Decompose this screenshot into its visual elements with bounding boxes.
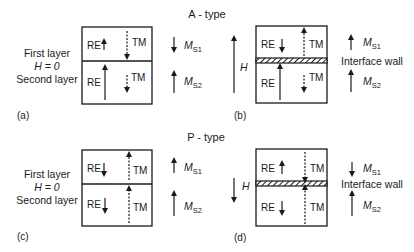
tm-label: TM <box>309 72 323 83</box>
re-label: RE <box>87 199 101 210</box>
ms1-label: MS1 <box>184 161 202 176</box>
panel-b: H RE TM RE TM MS1 Interface wall MS2 (b) <box>234 26 403 121</box>
panel-label-b: (b) <box>234 110 246 121</box>
re-label: RE <box>261 163 275 174</box>
ms1-label: MS1 <box>363 162 381 177</box>
interface-wall-hatch <box>256 181 327 186</box>
ms1-label: MS1 <box>184 39 202 54</box>
tm-label: TM <box>309 39 323 50</box>
re-label: RE <box>261 78 275 89</box>
panel-label-c: (c) <box>17 231 29 242</box>
re-label: RE <box>261 202 275 213</box>
panel-a: First layer H = 0 Second layer RE TM RE … <box>16 27 202 121</box>
layer-box <box>256 149 327 226</box>
tm-label: TM <box>133 165 147 176</box>
panel-c: First layer H = 0 Second layer RE TM RE … <box>16 150 202 242</box>
title-p-type: P - type <box>187 131 225 143</box>
re-label: RE <box>87 77 101 88</box>
ms2-label: MS2 <box>184 200 202 215</box>
tm-label: TM <box>133 202 147 213</box>
panel-label-a: (a) <box>17 110 29 121</box>
label-first-layer: First layer <box>24 168 71 180</box>
layer-box <box>82 150 152 226</box>
tm-label: TM <box>132 37 146 48</box>
layer-box <box>256 26 327 103</box>
ms2-label: MS2 <box>184 75 202 90</box>
re-label: RE <box>87 163 101 174</box>
re-label: RE <box>261 39 275 50</box>
tm-label: TM <box>131 72 145 83</box>
diagram-canvas: A - type P - type First layer H = 0 Seco… <box>0 0 414 252</box>
label-h-zero: H = 0 <box>34 60 60 72</box>
title-a-type: A - type <box>188 8 225 20</box>
label-second-layer: Second layer <box>16 73 78 85</box>
field-h-label: H <box>242 180 250 192</box>
tm-label: TM <box>310 163 324 174</box>
ms1-label: MS1 <box>363 36 381 51</box>
re-label: RE <box>87 40 101 51</box>
tm-label: TM <box>310 202 324 213</box>
field-h-label: H <box>240 61 248 73</box>
label-second-layer: Second layer <box>16 194 78 206</box>
label-first-layer: First layer <box>24 47 71 59</box>
interface-wall-hatch <box>256 58 327 63</box>
ms2-label: MS2 <box>363 75 381 90</box>
panel-label-d: (d) <box>234 232 246 243</box>
interface-wall-label: Interface wall <box>341 178 403 190</box>
ms2-label: MS2 <box>363 199 381 214</box>
label-h-zero: H = 0 <box>34 181 60 193</box>
panel-d: H RE TM RE TM MS1 Interface wall MS2 (d) <box>234 149 403 243</box>
interface-wall-label: Interface wall <box>341 55 403 67</box>
